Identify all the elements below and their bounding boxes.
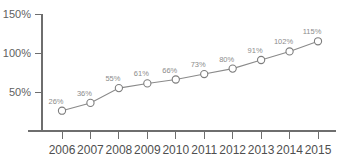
y-axis-ticks (35, 14, 42, 92)
data-point-label: 80% (219, 55, 234, 64)
data-point-label: 36% (77, 89, 92, 98)
data-point (258, 56, 265, 63)
data-point-label: 102% (274, 37, 294, 46)
x-tick-label: 2007 (77, 143, 104, 157)
data-point (115, 85, 122, 92)
x-tick-label: 2015 (305, 143, 332, 157)
x-tick-label: 2010 (162, 143, 189, 157)
x-tick-label: 2013 (248, 143, 275, 157)
x-tick-label: 2008 (106, 143, 133, 157)
data-point (172, 76, 179, 83)
x-tick-label: 2009 (134, 143, 161, 157)
x-axis-tick-labels: 2006200720082009201020112012201320142015 (49, 143, 332, 157)
y-tick-label: 150% (3, 8, 31, 20)
data-point (314, 38, 321, 45)
y-axis-tick-labels: 50%100%150% (3, 8, 31, 98)
data-point-label: 91% (248, 46, 263, 55)
data-point-label: 73% (191, 60, 206, 69)
x-tick-label: 2014 (276, 143, 303, 157)
x-tick-label: 2012 (219, 143, 246, 157)
data-point (229, 65, 236, 72)
x-tick-label: 2011 (191, 143, 217, 157)
data-point-label: 26% (48, 97, 63, 106)
series-line (62, 41, 318, 110)
data-point-label: 61% (134, 69, 149, 78)
x-axis-ticks (62, 131, 318, 139)
data-point-label: 55% (105, 74, 120, 83)
data-point (286, 48, 293, 55)
data-point (87, 99, 94, 106)
data-point-markers (58, 38, 321, 115)
line-chart: 50%100%150% 2006200720082009201020112012… (0, 0, 344, 165)
x-tick-label: 2006 (49, 143, 76, 157)
data-point-label: 66% (162, 66, 177, 75)
y-tick-label: 50% (9, 86, 31, 98)
data-point (201, 70, 208, 77)
y-tick-label: 100% (3, 47, 31, 59)
data-point (58, 107, 65, 114)
chart-canvas: 50%100%150% 2006200720082009201020112012… (0, 0, 344, 165)
data-point-label: 115% (303, 27, 322, 36)
data-point (144, 80, 151, 87)
data-point-labels: 26%36%55%61%66%73%80%91%102%115% (48, 27, 321, 105)
